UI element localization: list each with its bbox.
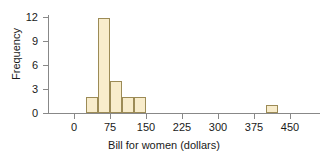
x-axis-title: Bill for women (dollars) [0, 139, 328, 151]
x-tick-450 [290, 114, 291, 119]
y-axis-title: Frequency [10, 9, 22, 99]
y-tick-12 [43, 17, 48, 18]
y-tick-3 [43, 89, 48, 90]
x-tick-375 [254, 114, 255, 119]
x-tick-label-75: 75 [90, 121, 130, 133]
x-tick-label-150: 150 [126, 121, 166, 133]
x-tick-75 [110, 114, 111, 119]
y-tick-6 [43, 65, 48, 66]
y-tick-label-0: 0 [14, 107, 38, 119]
histogram-bar [86, 97, 98, 113]
histogram-bar [98, 18, 110, 113]
x-tick-label-375: 375 [234, 121, 274, 133]
x-axis-line [48, 113, 320, 114]
histogram-bar [110, 81, 122, 113]
x-tick-label-450: 450 [270, 121, 310, 133]
y-tick-9 [43, 41, 48, 42]
plot-area: 12 9 6 3 0 0 75 150 225 300 375 450 Bill… [0, 0, 328, 158]
x-tick-150 [146, 114, 147, 119]
x-tick-300 [218, 114, 219, 119]
histogram-figure: 12 9 6 3 0 0 75 150 225 300 375 450 Bill… [0, 0, 328, 158]
x-tick-0 [74, 114, 75, 119]
histogram-bar [134, 97, 146, 113]
x-tick-label-300: 300 [198, 121, 238, 133]
x-tick-225 [182, 114, 183, 119]
y-axis-line [48, 15, 49, 114]
histogram-bar [266, 105, 278, 113]
y-tick-0 [43, 113, 48, 114]
histogram-bar [122, 97, 134, 113]
x-tick-label-0: 0 [54, 121, 94, 133]
x-tick-label-225: 225 [162, 121, 202, 133]
